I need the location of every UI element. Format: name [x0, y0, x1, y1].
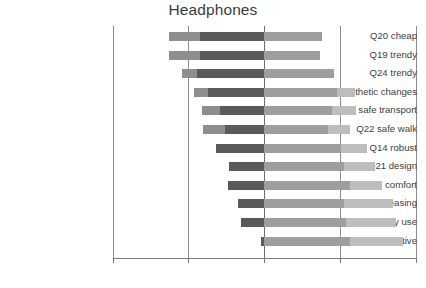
stacked-bar[interactable] [182, 69, 334, 78]
bar-segment-negative [200, 32, 264, 41]
bar-segment-strongly-positive [350, 181, 382, 190]
bar-segment-strongly-negative [203, 125, 224, 134]
stacked-bar[interactable] [169, 51, 321, 60]
bar-segment-positive [264, 144, 341, 153]
bar-row: Q13 comfort [0, 177, 426, 195]
bar-segment-strongly-negative [194, 88, 208, 97]
bar-segment-negative [241, 218, 264, 227]
bar-segment-negative [200, 51, 264, 60]
stacked-bar[interactable] [241, 218, 396, 227]
bar-segment-strongly-negative [169, 32, 201, 41]
stacked-bar[interactable] [229, 162, 374, 171]
bar-segment-strongly-positive [341, 144, 367, 153]
bar-segment-negative [197, 69, 264, 78]
bar-segment-positive [264, 32, 322, 41]
bar-segment-positive [264, 237, 350, 246]
bar-segment-negative [238, 199, 264, 208]
bar-segment-negative [208, 88, 264, 97]
stacked-bar[interactable] [238, 199, 393, 208]
bar-segment-strongly-positive [328, 125, 351, 134]
stacked-bar[interactable] [261, 237, 403, 246]
bar-segment-positive [264, 51, 320, 60]
bar-segment-positive [264, 218, 346, 227]
bar-row: Q21 design [0, 158, 426, 176]
bar-segment-positive [264, 162, 344, 171]
stacked-bar[interactable] [194, 88, 355, 97]
stacked-bar[interactable] [169, 32, 322, 41]
bar-segment-positive [264, 88, 337, 97]
bar-segment-negative [225, 125, 264, 134]
bar-segment-strongly-positive [350, 237, 403, 246]
bar-row: Q22 safe walk [0, 121, 426, 139]
bar-segment-strongly-positive [344, 162, 374, 171]
bar-row: Q15 intuitive [0, 233, 426, 251]
bar-segment-negative [220, 106, 264, 115]
stacked-bar[interactable] [202, 106, 357, 115]
stacked-bar[interactable] [228, 181, 383, 190]
bar-segment-strongly-positive [344, 199, 392, 208]
bar-segment-negative [216, 144, 264, 153]
x-tick--50 [188, 258, 189, 263]
bar-segment-strongly-positive [346, 218, 396, 227]
stacked-bar[interactable] [216, 144, 368, 153]
category-label: Q19 trendy [313, 49, 426, 60]
x-tick-50 [340, 258, 341, 263]
bar-row: Q20 cheap [0, 28, 426, 46]
bar-segment-strongly-negative [182, 69, 197, 78]
x-tick-0 [264, 258, 265, 263]
plot-area: Q20 cheapQ19 trendyQ24 trendyQ17 aesthet… [0, 26, 426, 262]
chart-container: Headphones Q20 cheapQ19 trendyQ24 trendy… [0, 0, 426, 288]
bar-row: Q17 aesthetic changes [0, 84, 426, 102]
chart-title: Headphones [0, 1, 426, 19]
bar-segment-positive [264, 181, 350, 190]
category-label: Q20 cheap [313, 30, 426, 41]
stacked-bar[interactable] [203, 125, 350, 134]
bar-segment-positive [264, 69, 334, 78]
x-axis-line [113, 258, 417, 259]
bar-segment-strongly-positive [332, 106, 356, 115]
bar-segment-negative [228, 181, 264, 190]
bar-segment-negative [229, 162, 264, 171]
bar-segment-positive [264, 199, 344, 208]
bar-row: Q23 safe transport [0, 102, 426, 120]
bar-segment-positive [264, 125, 328, 134]
bar-segment-positive [264, 106, 332, 115]
bar-segment-strongly-negative [202, 106, 220, 115]
bar-segment-strongly-negative [169, 51, 201, 60]
bar-row: Q24 trendy [0, 65, 426, 83]
x-tick-100 [416, 258, 417, 263]
bar-row: Q19 trendy [0, 47, 426, 65]
bar-row: Q18 easy use [0, 214, 426, 232]
bar-row: Q16 aesthetic pleasing [0, 195, 426, 213]
bar-segment-strongly-positive [337, 88, 355, 97]
bar-row: Q14 robust [0, 140, 426, 158]
x-tick--100 [113, 258, 114, 263]
